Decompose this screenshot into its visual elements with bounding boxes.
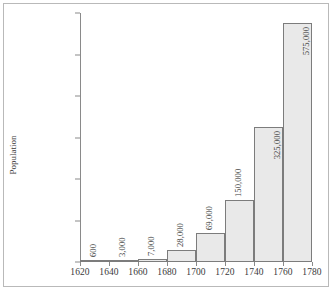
x-tick-label: 1740: [244, 267, 263, 277]
x-tick-mark: [196, 262, 197, 266]
bar: 69,000: [196, 233, 225, 262]
x-tick-mark: [80, 262, 81, 266]
bar: 7,000: [138, 259, 167, 262]
bar-value-label: 28,000: [175, 223, 185, 247]
x-tick-mark: [312, 262, 313, 266]
x-tick-mark: [225, 262, 226, 266]
bar-value-label: 7,000: [146, 236, 156, 256]
bar: 575,000: [283, 23, 312, 262]
bar-value-label: 3,000: [117, 237, 127, 257]
x-tick-label: 1620: [70, 267, 89, 277]
x-tick-label: 1640: [99, 267, 118, 277]
bar: 150,000: [225, 200, 254, 262]
chart-figure: Population 0100,000200,000300,000400,000…: [0, 0, 333, 291]
bar: 325,000: [254, 127, 283, 262]
plot-area: 6003,0007,00028,00069,000150,000325,0005…: [80, 13, 312, 262]
bar-value-label: 150,000: [233, 168, 243, 196]
x-tick-label: 1660: [128, 267, 147, 277]
bar-value-label: 600: [88, 244, 98, 257]
x-tick-mark: [109, 262, 110, 266]
bar: 28,000: [167, 250, 196, 262]
x-tick-label: 1700: [186, 267, 205, 277]
bar-value-label: 69,000: [204, 206, 214, 230]
x-tick-mark: [283, 262, 284, 266]
bar: 600: [80, 260, 109, 262]
bar: 3,000: [109, 260, 138, 262]
y-axis-title: Population: [6, 120, 20, 190]
x-tick-label: 1760: [273, 267, 292, 277]
x-tick-mark: [138, 262, 139, 266]
x-tick-label: 1720: [215, 267, 234, 277]
y-axis-title-text: Population: [8, 135, 18, 174]
x-tick-label: 1680: [157, 267, 176, 277]
x-tick-label: 1780: [302, 267, 321, 277]
bar-value-label: 575,000: [301, 27, 311, 55]
bar-value-label: 325,000: [272, 131, 282, 159]
x-tick-mark: [254, 262, 255, 266]
x-tick-mark: [167, 262, 168, 266]
